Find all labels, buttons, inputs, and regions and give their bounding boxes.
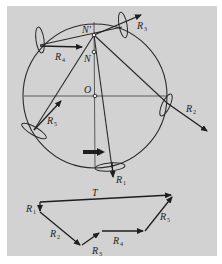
svg-text:R: R (159, 211, 166, 222)
svg-text:1: 1 (123, 180, 126, 186)
svg-text:R: R (136, 20, 143, 31)
svg-text:5: 5 (54, 121, 57, 127)
svg-text:R: R (115, 174, 122, 185)
point-n (92, 50, 96, 54)
svg-text:2: 2 (193, 109, 196, 115)
svg-text:R: R (54, 51, 61, 62)
svg-text:R: R (112, 235, 119, 246)
figure-panel (7, 6, 217, 256)
svg-text:2: 2 (57, 234, 60, 240)
label-n-prime: N' (81, 24, 92, 35)
label-o: O (84, 84, 91, 95)
force-diagram: N' N O R 4 R 3 R 2 R 5 R 1 T R 1 R 2 R 3 (0, 0, 222, 264)
svg-text:R: R (49, 228, 56, 239)
svg-text:R: R (185, 103, 192, 114)
svg-text:3: 3 (99, 251, 102, 257)
point-o (93, 94, 97, 98)
label-n: N (83, 53, 92, 64)
svg-text:5: 5 (167, 217, 170, 223)
svg-text:R: R (46, 115, 53, 126)
svg-text:3: 3 (144, 26, 147, 32)
svg-text:R: R (25, 203, 32, 214)
svg-text:4: 4 (62, 57, 65, 63)
svg-text:4: 4 (120, 241, 123, 247)
svg-text:1: 1 (33, 209, 36, 215)
svg-text:R: R (91, 245, 98, 256)
point-n-prime (92, 33, 96, 37)
